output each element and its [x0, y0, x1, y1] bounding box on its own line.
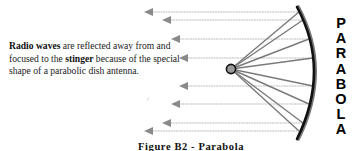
- stray-mark: /: [147, 95, 149, 103]
- title-letter: P: [336, 16, 346, 31]
- title-letter: B: [336, 77, 346, 92]
- title-letter: L: [337, 107, 346, 122]
- arrowhead-icons: [144, 8, 188, 135]
- vertical-title-parabola: P A R A B O L A: [331, 16, 351, 138]
- title-letter: O: [335, 92, 346, 107]
- title-letter: A: [336, 62, 346, 77]
- title-letter: A: [336, 31, 346, 46]
- title-letter: A: [336, 122, 346, 137]
- parabola-diagram: [0, 0, 356, 151]
- focus-rays: [231, 12, 313, 131]
- focus-stinger-icon: [226, 64, 235, 73]
- title-letter: R: [336, 46, 346, 61]
- figure-caption: Figure B2 - Parabola: [138, 141, 244, 151]
